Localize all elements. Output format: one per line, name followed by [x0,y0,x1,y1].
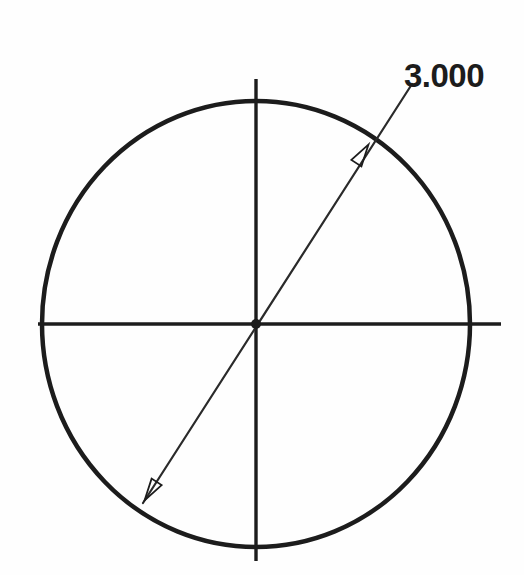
lower-arrowhead-icon [145,479,162,501]
diameter-dimension-line[interactable] [143,84,412,503]
center-point-icon [251,319,261,329]
diameter-dimension-label[interactable]: 3.000 [404,57,484,95]
drawing-canvas: 3.000 [0,0,524,575]
